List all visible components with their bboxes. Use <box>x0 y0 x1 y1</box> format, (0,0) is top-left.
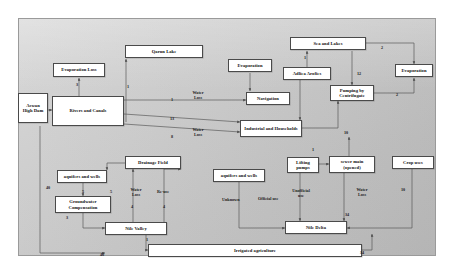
node-aquifers-wells-right[interactable]: aquifers and wells <box>213 169 265 182</box>
node-rivers-and-canals[interactable]: Rivers and Canals <box>52 96 124 126</box>
node-adliea-arofies[interactable]: Adliea Arofies <box>283 67 331 80</box>
node-nile-valley[interactable]: Nile Valley <box>105 222 167 235</box>
node-nile-delta[interactable]: Nile Delta <box>285 221 347 234</box>
edge-label-lbl-4-reuse: 4 <box>163 205 165 210</box>
edge-label-lbl-12: 12 <box>357 72 361 77</box>
node-crop-uses[interactable]: Crop uses <box>392 156 434 169</box>
edge-label-lbl-unknown: Unknown <box>222 198 239 203</box>
edge-label-lbl-1-nv: 1 <box>146 238 148 243</box>
node-evaporation-mid[interactable]: Evaporation <box>228 59 272 72</box>
edge-label-lbl-40-bottom: 40 <box>100 253 104 258</box>
edge-label-lbl-official-use: Official use <box>258 197 278 202</box>
edge-label-lbl-4-wl3: 4 <box>131 205 133 210</box>
node-evaporation-loss[interactable]: Evaporation Loss <box>53 63 105 77</box>
edge-label-lbl-1-sewer: 1 <box>312 148 314 153</box>
node-qarun-lake[interactable]: Qarun Lake <box>125 45 203 58</box>
node-drainage-field[interactable]: Drainage Field <box>125 156 181 169</box>
node-lifting-pumps[interactable]: Lifting pumps <box>287 157 319 173</box>
edge-label-lbl-water-loss-3: Water Loss <box>126 188 146 198</box>
node-groundwater-comp[interactable]: Groundwater Compensation <box>55 196 111 213</box>
edge-label-lbl-5-aquifer: 5 <box>82 190 84 195</box>
edge-label-lbl-10-crop: 10 <box>401 188 405 193</box>
edge-label-lbl-8: 8 <box>171 135 173 140</box>
edge-label-lbl-water-loss-1: Water Loss <box>188 91 208 101</box>
node-evaporation-right[interactable]: Evaporation <box>395 64 433 77</box>
edge-label-lbl-34: 34 <box>345 213 349 218</box>
edge-label-lbl-34-bottom: 34 <box>360 251 364 256</box>
node-pumping-by-coastal[interactable]: Pumping by Centrifugate <box>330 85 374 101</box>
node-aquifers-wells-left[interactable]: aquifers and wells <box>57 170 107 183</box>
node-navigation[interactable]: Navigation <box>246 92 290 105</box>
edge-label-lbl-water-loss-2: Water Loss <box>188 128 208 138</box>
edge-label-lbl-2-top: 2 <box>381 46 383 51</box>
edge-label-lbl-2-right: 2 <box>396 93 398 98</box>
edge-label-lbl-3-gw: 3 <box>66 216 68 221</box>
edge-label-lbl-1-wl1: 1 <box>171 98 173 103</box>
edge-label-lbl-1-seaandlakes: 1 <box>304 56 306 61</box>
diagram-frame <box>18 18 436 256</box>
edge-label-lbl-1-qarun: 1 <box>127 85 129 90</box>
node-sewer-main-opened[interactable]: sewer main (opened) <box>329 156 375 173</box>
node-irrigated-agriculture[interactable]: Irrigated agriculture <box>148 244 362 257</box>
edge-label-lbl-40-left: 40 <box>46 186 50 191</box>
node-aswan-high-dam[interactable]: Aswan High Dam <box>18 93 48 123</box>
edge-label-lbl-10: 10 <box>344 131 348 136</box>
edge-label-lbl-water-loss-4: Water Loss <box>352 188 372 198</box>
node-sea-and-lakes[interactable]: Sea and Lakes <box>290 37 366 50</box>
edge-label-lbl-unofficial-use: Unofficial use <box>291 189 311 199</box>
edge-label-lbl-5-aquifer2: 5 <box>110 190 112 195</box>
edge-label-lbl-13: 13 <box>170 117 174 122</box>
diagram-canvas: Aswan High DamEvaporation LossQarun Lake… <box>0 0 449 270</box>
edge-label-lbl-reuse: Re-use <box>157 190 169 195</box>
edge-label-lbl-3: 3 <box>76 83 78 88</box>
node-industrial-households[interactable]: Industrial and Households <box>240 120 302 137</box>
